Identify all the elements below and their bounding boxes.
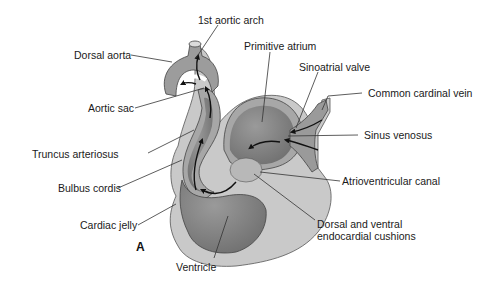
label-1st-aortic-arch: 1st aortic arch bbox=[198, 14, 264, 26]
panel-letter: A bbox=[136, 240, 145, 254]
label-aortic-sac: Aortic sac bbox=[88, 102, 134, 114]
label-truncus-arteriosus: Truncus arteriosus bbox=[32, 148, 119, 160]
label-common-cardinal-vein: Common cardinal vein bbox=[368, 87, 472, 99]
label-dorsal-aorta: Dorsal aorta bbox=[74, 49, 131, 61]
label-ventricle: Ventricle bbox=[176, 261, 216, 273]
label-bulbus-cordis: Bulbus cordis bbox=[58, 182, 121, 194]
label-sinoatrial-valve: Sinoatrial valve bbox=[299, 61, 370, 73]
label-endocardial-cushions-line1: Dorsal and ventral bbox=[317, 218, 402, 230]
label-primitive-atrium: Primitive atrium bbox=[244, 40, 316, 52]
label-atrioventricular-canal: Atrioventricular canal bbox=[342, 175, 440, 187]
label-sinus-venosus: Sinus venosus bbox=[364, 129, 432, 141]
label-cardiac-jelly: Cardiac jelly bbox=[80, 219, 137, 231]
label-endocardial-cushions-line2: endocardial cushions bbox=[317, 230, 416, 242]
embryonic-heart-diagram: 1st aortic arch Dorsal aorta Primitive a… bbox=[0, 0, 494, 284]
endocardial-cushions-shape bbox=[230, 158, 262, 182]
